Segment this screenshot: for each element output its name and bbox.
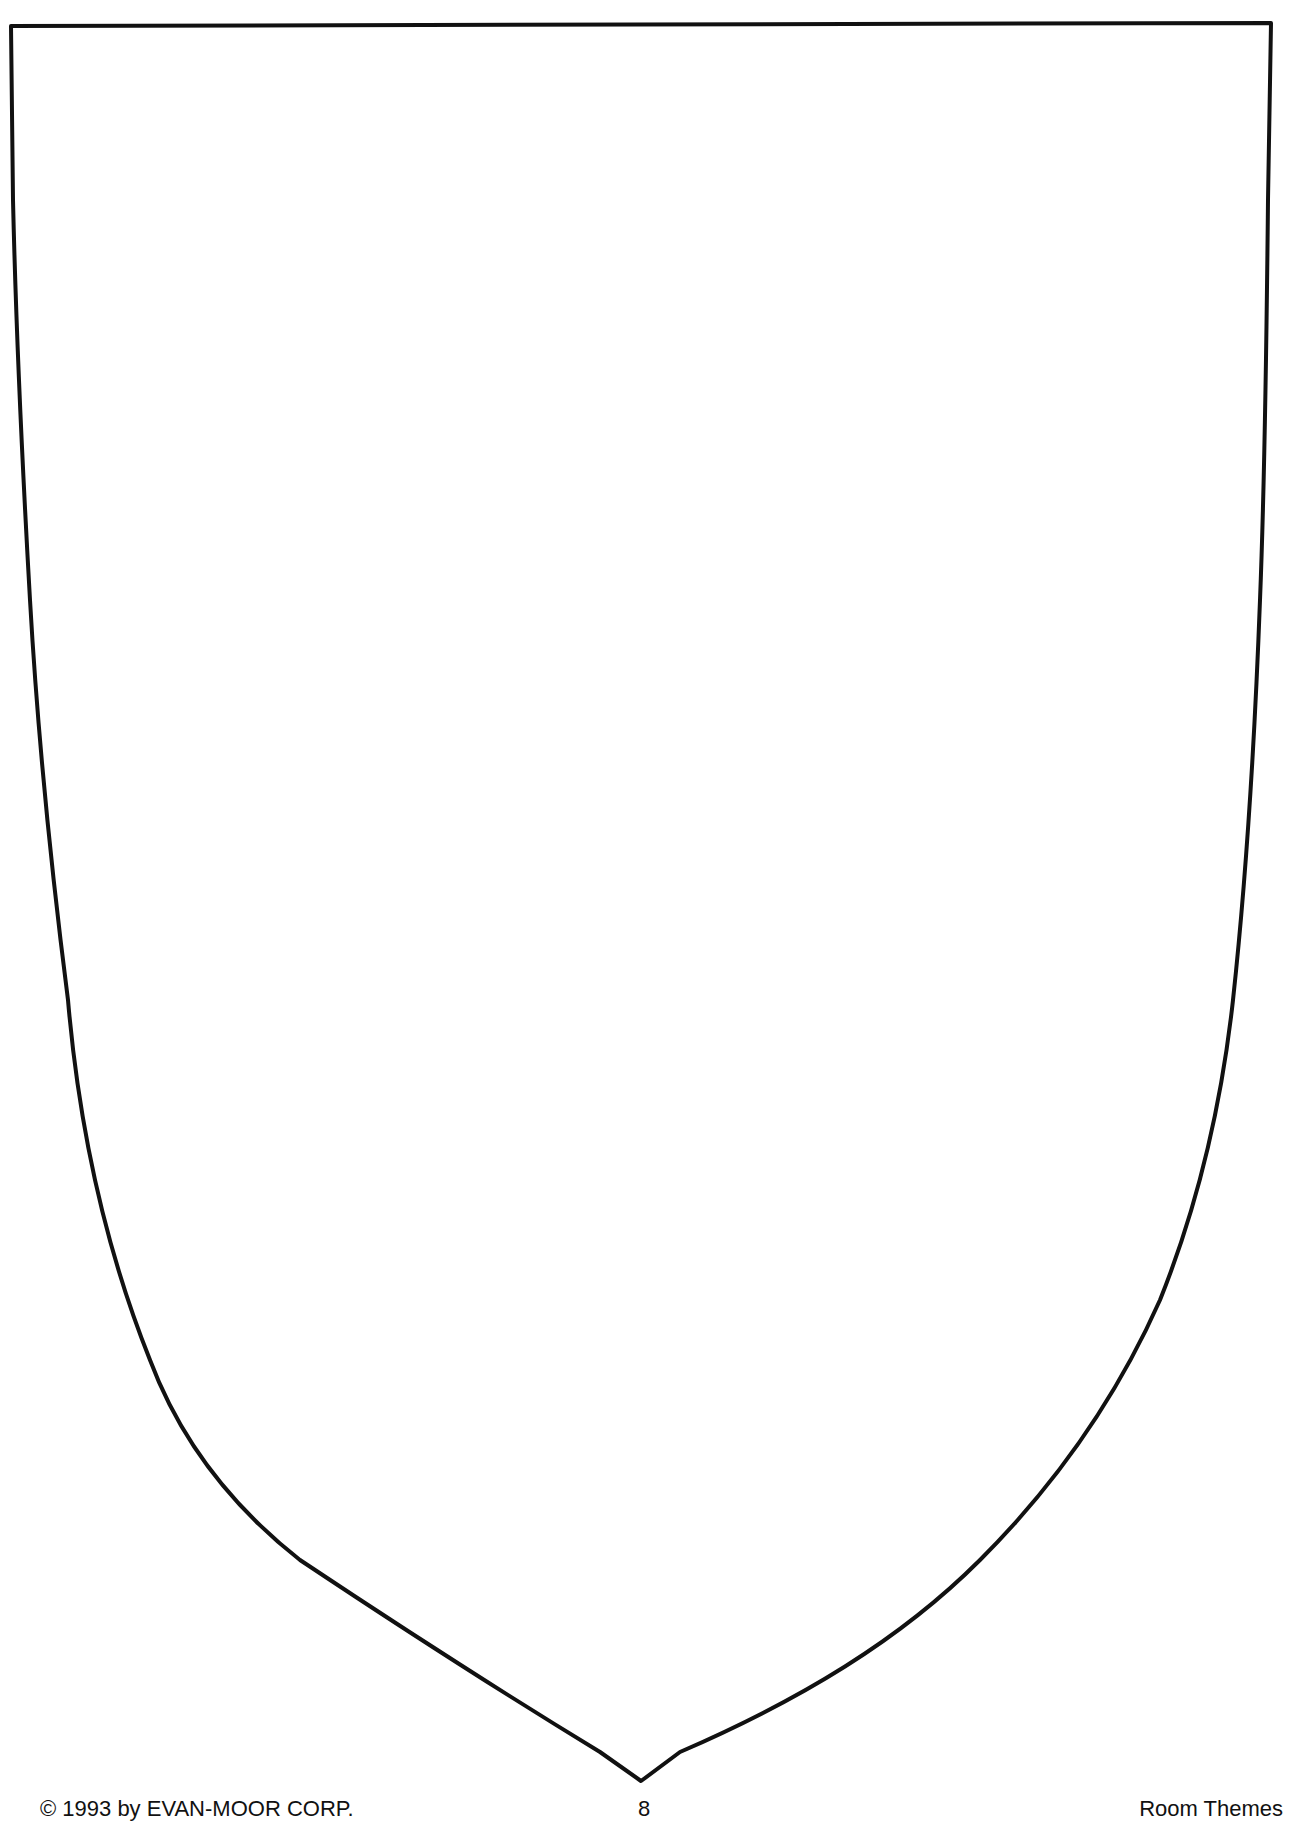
page-footer: © 1993 by EVAN-MOOR CORP. 8 Room Themes	[0, 1797, 1295, 1821]
page-number: 8	[638, 1797, 650, 1821]
copyright-notice: © 1993 by EVAN-MOOR CORP.	[40, 1797, 354, 1821]
book-title: Room Themes	[1139, 1797, 1283, 1821]
